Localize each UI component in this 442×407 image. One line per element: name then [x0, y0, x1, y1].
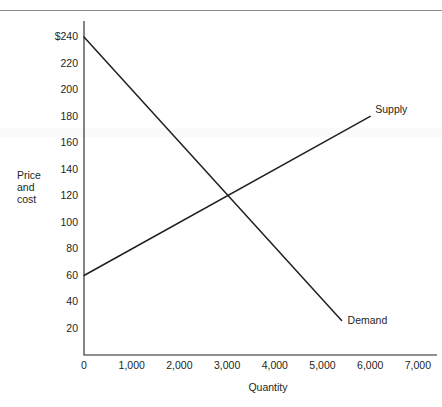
y-axis-title-line-3: cost	[17, 193, 41, 205]
y-axis-title-line-1: Price	[17, 169, 41, 181]
x-tick-label: 7,000	[388, 360, 442, 371]
supply-series-label: Supply	[375, 104, 407, 115]
y-axis-title: Price and cost	[17, 169, 41, 206]
supply-demand-figure: 20406080100120140160180200220$240 01,000…	[0, 0, 442, 407]
x-axis-title: Quantity	[0, 381, 442, 393]
x-axis-tick-labels: 01,0002,0003,0004,0005,0006,0007,000	[0, 0, 442, 407]
demand-series-label: Demand	[348, 315, 388, 326]
x-axis-title-text: Quantity	[248, 381, 287, 393]
y-axis-title-line-2: and	[17, 181, 41, 193]
